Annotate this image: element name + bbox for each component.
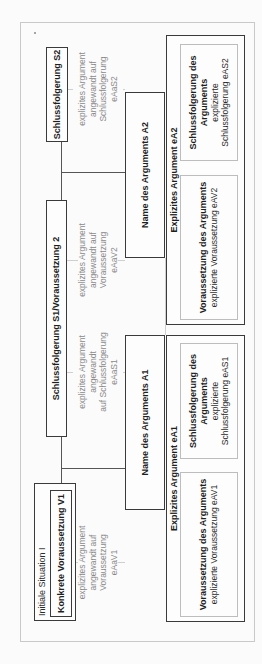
premise-v1-label: Konkrete Voraussetzung V1 — [56, 494, 67, 613]
argument-a2-wrap: Name des Arguments A2 — [125, 92, 165, 258]
argument-a1-wrap: Name des Arguments A1 — [125, 335, 165, 510]
edge-label-eAaV2: explizites Argument angewandt auf Voraus… — [78, 210, 118, 310]
edge-label-eAaV1: explizites Argument angewandt auf Voraus… — [78, 515, 118, 610]
argument-a2-name: Name des Arguments A2 — [140, 122, 151, 228]
edge-label-eAaS1: explizites Argument angewandt auf Schlus… — [73, 328, 123, 416]
ea1-conclusion-wrap: Schlussfolgerung des Arguments explizier… — [180, 343, 238, 459]
connector-to-a2 — [61, 172, 125, 173]
argument-a1-name: Name des Arguments A1 — [140, 370, 151, 476]
ea2-title-wrap: Explizites Argument eA2 — [167, 36, 181, 324]
edge-label-eAaS2: explizites Argument angewandt auf Schlus… — [73, 51, 123, 127]
explicit-argument-ea1-title: Explizites Argument eA1 — [169, 426, 180, 531]
initial-situation-label: Initiale Situation I — [37, 547, 48, 616]
ea1-premise-wrap: Voraussetzung des Arguments explizierte … — [180, 472, 238, 617]
connector-s1-v1 — [61, 437, 62, 483]
conclusion-s2-label: Schlussfolgerung S2 — [52, 50, 63, 140]
initial-situation-label-wrap: Initiale Situation I — [35, 484, 49, 620]
connector-to-a1 — [61, 468, 125, 469]
ea1-title-wrap: Explizites Argument eA1 — [167, 336, 181, 621]
ea2-conclusion-wrap: Schlussfolgerung des Arguments explizier… — [180, 44, 238, 161]
premise-v1-wrap: Konkrete Voraussetzung V1 — [50, 490, 72, 617]
explicit-argument-ea2-title: Explizites Argument eA2 — [169, 127, 180, 232]
s2-wrap: Schlussfolgerung S2 — [46, 47, 68, 142]
connector-s2-s1 — [61, 142, 62, 200]
conclusion-s1-premise-2-label: Schlussfolgerung S1/Voraussetzung 2 — [51, 237, 62, 400]
s1v2-wrap: Schlussfolgerung S1/Voraussetzung 2 — [46, 200, 67, 437]
ea2-premise-wrap: Voraussetzung des Arguments explizierte … — [180, 175, 238, 320]
